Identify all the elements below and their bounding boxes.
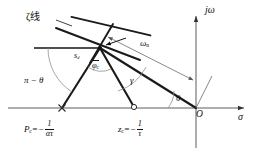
zeta-line-ray	[56, 28, 140, 60]
origin-label: O	[196, 110, 203, 120]
compensator-pole-label: Pc=− 1 ατ	[24, 120, 55, 139]
pole-equals: =−	[32, 124, 44, 134]
phi-c-symbol: φ	[92, 60, 97, 70]
zeta-label-leader	[56, 20, 72, 26]
zero-denominator: τ	[137, 130, 143, 138]
s-d-label: sd	[74, 52, 79, 61]
real-axis-label: σ	[238, 112, 243, 122]
pi-minus-theta-arc	[48, 48, 72, 92]
omega-n-measure-arrow	[108, 37, 193, 80]
imaginary-axis-label: jω	[205, 5, 215, 15]
theta-label: θ	[176, 94, 180, 103]
zeta-line-label: ζ线	[26, 12, 40, 22]
pi-minus-theta-label: π − θ	[24, 76, 44, 85]
dominant-pole-pointer-arrow	[106, 38, 126, 45]
s-d-subscript: d	[77, 55, 79, 60]
zero-numerator: 1	[137, 120, 143, 128]
phi-c-subscript: c	[97, 64, 99, 70]
phi-c-overbar: φc	[92, 60, 99, 71]
omega-n-label: ωn	[140, 39, 149, 49]
zero-equals: =−	[124, 124, 136, 134]
compensator-zero-marker	[131, 104, 136, 109]
gamma-label: γ	[130, 76, 134, 85]
omega-n-origin-tick	[196, 76, 212, 108]
pole-denominator: ατ	[45, 130, 54, 138]
zero-to-dominant-pole-line	[100, 48, 134, 107]
root-locus-diagram: ζ线 jω σ ωn sd φc π − θ γ θ O Pc=− 1 ατ z…	[0, 0, 258, 153]
pole-to-dominant-pole-line	[62, 48, 100, 108]
zero-fraction: 1 τ	[137, 120, 143, 139]
pole-fraction: 1 ατ	[45, 120, 54, 139]
dominant-pole-marker	[98, 46, 102, 50]
omega-n-subscript: n	[146, 42, 149, 48]
pole-numerator: 1	[45, 120, 54, 128]
compensator-zero-label: zc=− 1 τ	[118, 120, 144, 139]
phi-c-label: φc	[92, 60, 99, 71]
